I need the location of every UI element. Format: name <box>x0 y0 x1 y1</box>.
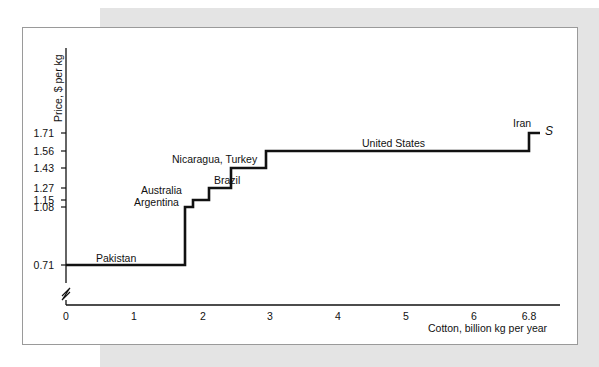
y-tick-label-3: 1.43 <box>20 162 54 174</box>
x-tick-label-6: 5 <box>389 310 423 322</box>
supply-curve-plot <box>0 0 599 367</box>
y-tick-label-1: 1.71 <box>20 127 54 139</box>
x-tick-label-2: 1 <box>117 310 151 322</box>
step-label-brazil: Brazil <box>214 174 240 186</box>
x-tick-label-7: 6 <box>457 310 491 322</box>
x-axis-title: Cotton, billion kg per year <box>428 322 547 334</box>
step-label-argentina: Argentina <box>134 196 179 208</box>
y-axis-break-icon <box>62 288 70 300</box>
figure-screenshot: Price, $ per kg 1.71 1.56 1.43 1.27 1.15… <box>0 0 599 367</box>
x-tick-label-3: 2 <box>186 310 220 322</box>
x-tick-label-5: 4 <box>321 310 355 322</box>
x-tick-label-4: 3 <box>253 310 287 322</box>
step-label-nicaragua-turkey: Nicaragua, Turkey <box>172 153 257 165</box>
y-tick-label-4: 1.27 <box>20 182 54 194</box>
y-tick-label-6: 1.08 <box>20 201 54 213</box>
step-label-pakistan: Pakistan <box>96 252 136 264</box>
curve-name-label: S <box>545 124 553 138</box>
y-axis-title: Price, $ per kg <box>52 108 64 122</box>
step-label-united-states: United States <box>362 137 425 149</box>
y-tick-label-2: 1.56 <box>20 145 54 157</box>
y-tick-marks <box>61 133 66 265</box>
step-label-australia: Australia <box>141 184 182 196</box>
x-tick-label-1: 0 <box>49 310 83 322</box>
step-label-iran: Iran <box>513 117 531 129</box>
x-tick-label-8: 6.8 <box>512 310 546 322</box>
y-tick-label-7: 0.71 <box>20 259 54 271</box>
